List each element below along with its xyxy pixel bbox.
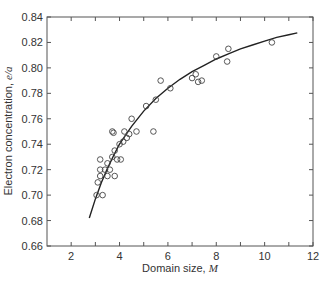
data-point (224, 59, 230, 65)
x-tick-label: 10 (259, 250, 271, 262)
y-tick-label: 0.84 (22, 11, 43, 23)
data-points (94, 40, 275, 198)
x-tick-label: 8 (213, 250, 219, 262)
y-tick-label: 0.66 (22, 240, 43, 252)
fit-curve (89, 33, 297, 218)
data-point (97, 157, 103, 163)
data-point (158, 78, 164, 84)
y-tick-label: 0.80 (22, 62, 43, 74)
data-point (134, 129, 140, 135)
x-tick-label: 12 (307, 250, 319, 262)
y-tick-label: 0.76 (22, 113, 43, 125)
y-axis-ticks: 0.660.680.700.720.740.760.780.800.820.84 (22, 11, 313, 252)
data-point (105, 173, 111, 179)
y-tick-label: 0.68 (22, 215, 43, 227)
x-tick-label: 6 (165, 250, 171, 262)
axes-frame (47, 17, 313, 246)
y-axis-label: Electron concentration, e/a (2, 66, 14, 196)
data-point (151, 129, 157, 135)
y-tick-label: 0.78 (22, 87, 43, 99)
y-tick-label: 0.82 (22, 36, 43, 48)
data-point (199, 78, 205, 84)
data-point (195, 79, 201, 85)
data-point (97, 173, 103, 179)
data-point (112, 173, 118, 179)
x-axis-label: Domain size, M (142, 262, 219, 274)
data-point (129, 116, 135, 122)
data-point (118, 157, 124, 163)
scatter-chart: 0.660.680.700.720.740.760.780.800.820.84… (0, 0, 326, 281)
data-point (269, 40, 275, 46)
y-tick-label: 0.70 (22, 189, 43, 201)
x-tick-label: 4 (116, 250, 122, 262)
data-point (111, 130, 117, 136)
x-axis-ticks: 24681012 (68, 17, 319, 262)
data-point (122, 129, 128, 135)
y-tick-label: 0.74 (22, 138, 43, 150)
y-tick-label: 0.72 (22, 164, 43, 176)
data-point (193, 71, 199, 77)
x-tick-label: 2 (68, 250, 74, 262)
data-point (226, 46, 232, 52)
data-point (100, 192, 106, 198)
data-point (95, 180, 101, 186)
